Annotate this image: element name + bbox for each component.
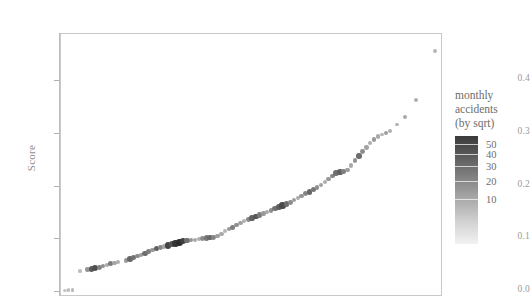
legend-title-line: (by sqrt) xyxy=(455,116,530,130)
colorbar-tick-mark xyxy=(455,166,478,167)
scatter-point xyxy=(364,145,368,149)
scatter-point xyxy=(356,153,361,158)
colorbar-tick-label: 50 xyxy=(486,138,497,149)
legend-title-line: accidents xyxy=(455,102,530,116)
legend: monthlyaccidents(by sqrt) 5040302010 xyxy=(455,88,530,244)
y-axis-tick-mark xyxy=(54,291,59,292)
legend-title-line: monthly xyxy=(455,88,530,102)
colorbar-tick-label: 30 xyxy=(486,161,497,172)
scatter-point xyxy=(71,288,75,292)
y-axis-title: Score xyxy=(25,113,37,203)
y-axis-tick-mark xyxy=(54,133,59,134)
scatter-chart-figure: Score 0.00.10.20.30.4 monthlyaccidents(b… xyxy=(0,0,530,308)
colorbar-tick-mark xyxy=(455,144,478,145)
scatter-point xyxy=(403,115,407,119)
colorbar-tick-label: 10 xyxy=(486,194,497,205)
colorbar-tick-mark xyxy=(455,199,478,200)
colorbar-tick-label: 40 xyxy=(486,149,497,160)
legend-colorbar-group: 5040302010 xyxy=(455,136,530,244)
scatter-point xyxy=(116,260,120,264)
y-axis-tick-mark xyxy=(54,238,59,239)
colorbar-tick-label: 20 xyxy=(486,175,497,186)
legend-title: monthlyaccidents(by sqrt) xyxy=(455,88,530,130)
y-axis-tick-mark xyxy=(54,186,59,187)
y-axis-tick-mark xyxy=(54,80,59,81)
y-axis-tick-label: 0.4 xyxy=(482,73,530,83)
scatter-point xyxy=(345,168,349,172)
data-points-layer xyxy=(61,34,441,295)
scatter-point xyxy=(323,180,327,184)
scatter-point xyxy=(67,288,71,292)
scatter-point xyxy=(349,163,353,167)
scatter-point xyxy=(388,129,392,133)
scatter-point xyxy=(395,123,399,127)
plot-panel xyxy=(60,33,442,296)
scatter-point xyxy=(360,149,365,154)
scatter-point xyxy=(78,269,82,273)
colorbar-tick-mark xyxy=(455,181,478,182)
scatter-point xyxy=(414,98,418,102)
scatter-point xyxy=(319,183,323,187)
scatter-point xyxy=(368,141,372,145)
colorbar-gradient xyxy=(455,136,478,244)
scatter-point xyxy=(433,49,437,53)
colorbar-tick-mark xyxy=(455,154,478,155)
y-axis-tick-label: 0.0 xyxy=(482,284,530,294)
